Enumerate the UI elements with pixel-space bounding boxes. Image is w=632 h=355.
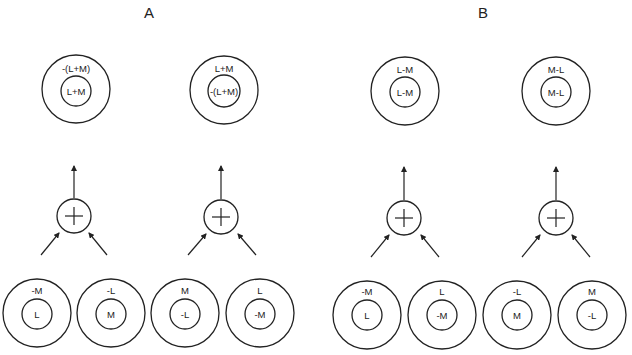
surround-label: L	[439, 286, 444, 297]
panel-label-a: A	[144, 4, 154, 21]
surround-label: -L	[513, 286, 521, 297]
input-receptive-field: L -M	[408, 281, 476, 349]
center-label: L-M	[397, 87, 413, 98]
output-receptive-field: L-M L-M	[371, 57, 439, 125]
summation-node	[522, 167, 590, 257]
input-receptive-field: -L M	[483, 281, 551, 349]
input-receptive-field: -L M	[77, 279, 145, 347]
output-receptive-field: M-L M-L	[522, 57, 590, 125]
input-receptive-field: -M L	[3, 279, 71, 347]
summation-node	[41, 166, 107, 255]
input-receptive-field: M -L	[151, 279, 219, 347]
summation-node	[371, 167, 439, 257]
surround-label: M	[181, 285, 189, 296]
surround-label: -M	[31, 285, 42, 296]
input-receptive-field: L -M	[226, 279, 294, 347]
surround-label: L-M	[397, 64, 413, 75]
surround-label: M	[588, 286, 596, 297]
center-label: L	[34, 309, 39, 320]
surround-label: -(L+M)	[62, 63, 90, 74]
panel-label-b: B	[478, 4, 488, 21]
surround-label: -M	[361, 286, 372, 297]
output-receptive-field: L+M -(L+M)	[190, 56, 258, 124]
receptive-field-diagram: A B -(L+M) L+M -M L -L M L+M -(L+M)	[0, 0, 632, 355]
summation-node	[188, 166, 256, 255]
center-label: -L	[181, 309, 189, 320]
center-label: -M	[254, 309, 265, 320]
surround-label: L	[257, 285, 262, 296]
center-label: -(L+M)	[210, 86, 238, 97]
center-label: L	[364, 310, 369, 321]
surround-label: L+M	[215, 63, 234, 74]
center-label: M-L	[548, 87, 564, 98]
center-label: -L	[588, 310, 596, 321]
input-receptive-field: -M L	[333, 281, 401, 349]
surround-label: -L	[107, 285, 115, 296]
center-label: M	[107, 309, 115, 320]
output-receptive-field: -(L+M) L+M	[42, 55, 110, 123]
center-label: M	[513, 310, 521, 321]
center-label: -M	[436, 310, 447, 321]
center-label: L+M	[67, 86, 86, 97]
input-receptive-field: M -L	[558, 281, 626, 349]
surround-label: M-L	[548, 64, 564, 75]
